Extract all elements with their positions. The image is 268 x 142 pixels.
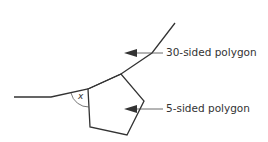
five-sided-polygon-label: 5-sided polygon <box>166 102 250 114</box>
five-sided-polygon <box>88 74 144 135</box>
five-sided-arrow-icon <box>124 105 137 113</box>
thirty-sided-polygon-label: 30-sided polygon <box>166 46 257 58</box>
polygon-diagram <box>0 0 268 142</box>
angle-x-label: x <box>78 91 83 101</box>
thirty-sided-arrow-icon <box>124 49 137 57</box>
